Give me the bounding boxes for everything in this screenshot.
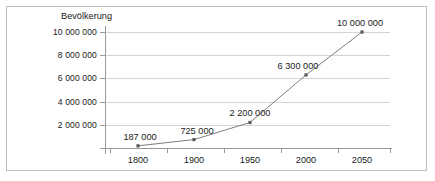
data-point-marker-1900 [192,138,195,141]
data-label-1950: 2 200 000 [230,108,271,118]
data-label-2000: 6 300 000 [278,61,319,71]
series-polyline [138,32,362,146]
data-label-2050: 10 000 000 [337,18,383,28]
data-point-marker-1800 [136,144,139,147]
data-label-1800: 187 000 [123,132,156,142]
data-label-1900: 725 000 [180,126,213,136]
chart-figure: Bevölkerung 10 000 000 8 000 000 6 000 0… [0,0,435,181]
data-point-marker-1950 [248,121,251,124]
data-point-marker-2000 [304,73,307,76]
data-point-marker-2050 [360,30,363,33]
series-markers [136,30,363,147]
